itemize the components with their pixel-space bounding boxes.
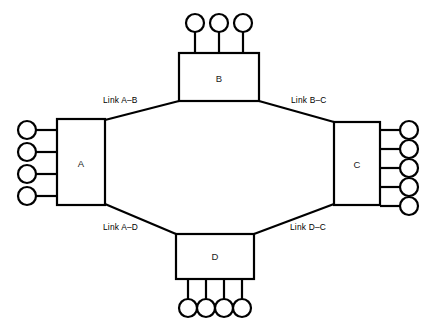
link-label-b-c: Link B–C <box>291 95 327 105</box>
node-c-terminal-5[interactable] <box>400 197 418 215</box>
link-label-a-b: Link A–B <box>103 95 138 105</box>
node-d-terminal-4[interactable] <box>233 299 251 317</box>
link-label-d-c: Link D–C <box>290 222 326 232</box>
network-diagram: A B C <box>0 0 433 328</box>
node-b-terminal-3[interactable] <box>234 14 252 32</box>
node-c-group: C <box>334 121 418 215</box>
node-c-terminal-1[interactable] <box>400 121 418 139</box>
node-b-terminal-2[interactable] <box>210 14 228 32</box>
node-d-terminal-2[interactable] <box>197 299 215 317</box>
node-b-terminal-1[interactable] <box>186 14 204 32</box>
node-d-group: D <box>176 234 254 317</box>
node-a-group: A <box>18 119 105 205</box>
node-d-terminal-1[interactable] <box>179 299 197 317</box>
node-a-terminal-3[interactable] <box>18 165 36 183</box>
node-label-d: D <box>212 251 219 262</box>
node-label-a: A <box>78 158 85 169</box>
trunk-link-group <box>105 101 334 234</box>
node-b-group: B <box>179 14 259 101</box>
node-a-terminal-1[interactable] <box>18 121 36 139</box>
node-d-terminal-3[interactable] <box>215 299 233 317</box>
node-a-terminal-4[interactable] <box>18 187 36 205</box>
node-c-terminal-4[interactable] <box>400 178 418 196</box>
node-c-terminal-3[interactable] <box>400 159 418 177</box>
node-label-b: B <box>216 73 222 84</box>
node-c-terminal-2[interactable] <box>400 140 418 158</box>
link-label-a-d: Link A–D <box>103 222 138 232</box>
node-a-terminal-2[interactable] <box>18 143 36 161</box>
diagram-svg-surface: A B C <box>0 0 433 328</box>
node-label-c: C <box>354 159 361 170</box>
